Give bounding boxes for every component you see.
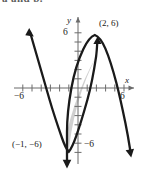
x-tick-label-positive-six: 6 — [120, 92, 125, 102]
upward-parabola-left-arrowhead — [25, 28, 34, 37]
lower-intersection-label: (−1, −6) — [12, 140, 42, 149]
downward-parabola-right-arrowhead — [126, 149, 134, 158]
x-tick-label-negative-six: −6 — [14, 92, 24, 102]
upward-parabola-curve — [30, 32, 97, 152]
y-axis-arrowhead — [76, 17, 81, 23]
x-axis-arrowhead — [129, 86, 135, 91]
y-axis-label: y — [67, 16, 71, 25]
upper-intersection-label: (2, 6) — [99, 19, 119, 28]
downward-parabola-left-arrowhead — [63, 160, 72, 169]
x-axis-label: x — [125, 76, 129, 85]
graph-figure: a and b. — [0, 0, 153, 170]
shaded-region — [67, 57, 96, 152]
y-tick-label-positive-six: 6 — [63, 28, 68, 38]
y-tick-label-negative-six: −6 — [84, 140, 94, 150]
